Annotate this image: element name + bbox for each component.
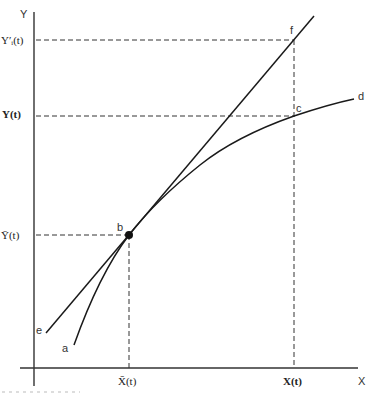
label-a: a xyxy=(62,342,69,354)
x-axis-label: X xyxy=(358,375,366,387)
x-tick-x-bar: X̄(t) xyxy=(118,375,137,388)
y-tick-y-t: Y(t) xyxy=(2,108,21,121)
curve-ad xyxy=(74,99,354,345)
label-b: b xyxy=(117,221,123,233)
label-c: c xyxy=(296,102,302,114)
label-f: f xyxy=(290,24,294,36)
x-tick-x-t: X(t) xyxy=(283,375,302,388)
y-tick-y-prime: Y′ᵢ(t) xyxy=(1,34,24,47)
tangent-line-ef xyxy=(46,16,314,333)
y-axis-label: Y xyxy=(20,8,28,20)
y-tick-y-bar: Ȳ(t) xyxy=(1,229,20,242)
tangent-diagram: Y X Y′ᵢ(t) Y(t) Ȳ(t) X̄(t) X(t) a b c d … xyxy=(0,0,376,394)
point-b-marker xyxy=(125,231,133,239)
label-e: e xyxy=(36,324,42,336)
label-d: d xyxy=(358,90,364,102)
